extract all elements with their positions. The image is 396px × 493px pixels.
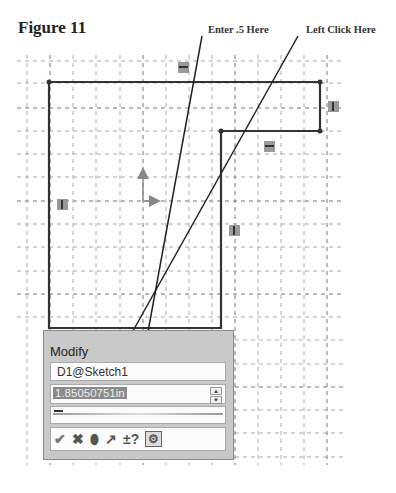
dialog-title: Modify [50,344,88,359]
reverse-dimension-icon[interactable]: ↗ [105,431,117,447]
dimension-value-text[interactable]: 1.85050751in [53,387,127,399]
dimension-value-input[interactable]: 1.85050751in ▲ ▼ [50,384,226,404]
modify-dialog: Modify D1@Sketch1 1.85050751in ▲ ▼ ✔ ✖ ⬮… [43,330,234,460]
ok-checkmark-icon[interactable]: ✔ [54,431,66,447]
mark-dimension-icon[interactable]: ±? [123,431,139,447]
dimension-name-field: D1@Sketch1 [50,362,226,381]
dialog-toolbar: ✔ ✖ ⬮ ↗ ±? ⚙ [50,427,226,451]
thumbwheel-tick [54,410,63,412]
spin-down-button[interactable]: ▼ [210,396,222,404]
relation-icons [57,62,339,236]
cancel-x-icon[interactable]: ✖ [72,431,84,447]
rebuild-icon[interactable]: ⬮ [90,431,99,448]
thumbwheel[interactable] [50,406,226,424]
origin-icon [143,170,158,201]
thumbwheel-bar[interactable] [53,413,223,415]
spin-up-button[interactable]: ▲ [210,387,222,395]
value-spinner[interactable]: ▲ ▼ [210,387,222,402]
sketch-profile [49,82,320,328]
options-icon[interactable]: ⚙ [145,431,162,447]
